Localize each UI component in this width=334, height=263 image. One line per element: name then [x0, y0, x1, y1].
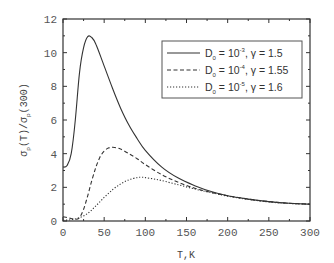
y-axis-label-text: σp(T)/σp(300) — [19, 83, 32, 156]
x-tick-label: 150 — [177, 227, 197, 239]
x-axis-label: T,K — [177, 250, 195, 261]
y-axis-label: σp(T)/σp(300) — [19, 83, 32, 156]
y-tick-label: 8 — [50, 81, 57, 93]
x-tick-label: 0 — [60, 227, 67, 239]
series-line-2 — [63, 147, 310, 219]
x-tick-label: 100 — [135, 227, 155, 239]
x-tick-label: 200 — [218, 227, 238, 239]
legend-entry: D0 = 10-4, γ = 1.55 — [205, 64, 289, 78]
y-tick-label: 12 — [44, 14, 57, 26]
series-line-3 — [63, 177, 310, 220]
y-tick-label: 6 — [50, 115, 57, 127]
line-chart: 050100150200250300024681012 D0 = 10-3, γ… — [0, 0, 334, 263]
y-tick-label: 2 — [50, 182, 57, 194]
y-tick-label: 0 — [50, 216, 57, 228]
x-tick-label: 50 — [98, 227, 111, 239]
x-tick-label: 250 — [259, 227, 279, 239]
x-tick-label: 300 — [300, 227, 320, 239]
y-tick-label: 10 — [44, 48, 57, 60]
legend: D0 = 10-3, γ = 1.5D0 = 10-4, γ = 1.55D0 … — [162, 41, 302, 98]
y-tick-label: 4 — [50, 149, 57, 161]
